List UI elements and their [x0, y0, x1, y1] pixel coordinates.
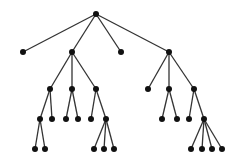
tree-edge: [194, 89, 204, 119]
tree-node: [49, 116, 55, 122]
tree-edge: [35, 119, 40, 149]
tree-edge: [169, 89, 177, 119]
tree-node: [69, 49, 75, 55]
tree-node: [199, 146, 205, 152]
tree-node: [32, 146, 38, 152]
tree-edge: [96, 89, 106, 119]
tree-node: [111, 146, 117, 152]
tree-node: [201, 116, 207, 122]
tree-edge: [50, 52, 72, 89]
tree-node: [63, 116, 69, 122]
tree-edge: [23, 14, 96, 52]
tree-edge: [91, 89, 96, 119]
tree-edge: [189, 89, 194, 119]
tree-node: [20, 49, 26, 55]
tree-node: [47, 86, 53, 92]
tree-node: [93, 86, 99, 92]
tree-node: [93, 11, 99, 17]
tree-node: [188, 146, 194, 152]
tree-edge: [106, 119, 114, 149]
tree-node: [69, 86, 75, 92]
tree-nodes: [20, 11, 225, 152]
tree-node: [145, 86, 151, 92]
tree-node: [166, 86, 172, 92]
tree-node: [118, 49, 124, 55]
tree-edge: [66, 89, 72, 119]
tree-node: [75, 116, 81, 122]
tree-edge: [204, 119, 222, 149]
tree-graph: [0, 0, 235, 164]
tree-edge: [72, 89, 78, 119]
tree-node: [159, 116, 165, 122]
tree-node: [101, 146, 107, 152]
tree-edge: [148, 52, 169, 89]
tree-node: [166, 49, 172, 55]
tree-diagram: [0, 0, 235, 164]
tree-edge: [40, 89, 50, 119]
tree-edge: [169, 52, 194, 89]
tree-node: [186, 116, 192, 122]
tree-edge: [204, 119, 212, 149]
tree-node: [209, 146, 215, 152]
tree-node: [103, 116, 109, 122]
tree-node: [174, 116, 180, 122]
tree-edge: [40, 119, 45, 149]
tree-node: [91, 146, 97, 152]
tree-node: [191, 86, 197, 92]
tree-node: [37, 116, 43, 122]
tree-edge: [50, 89, 52, 119]
tree-edge: [96, 14, 169, 52]
tree-edge: [162, 89, 169, 119]
tree-node: [42, 146, 48, 152]
tree-node: [219, 146, 225, 152]
tree-node: [88, 116, 94, 122]
tree-edge: [96, 14, 121, 52]
tree-edges: [23, 14, 222, 149]
tree-edge: [72, 52, 96, 89]
